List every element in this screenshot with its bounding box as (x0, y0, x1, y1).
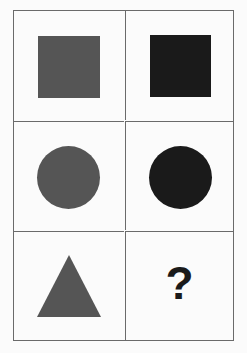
cell-row2-col2 (125, 121, 233, 230)
gray-circle-shape (37, 146, 100, 209)
gray-square-shape (38, 36, 100, 98)
question-mark-icon: ? (126, 260, 233, 306)
shape-puzzle-grid: ? (13, 10, 234, 341)
cell-row1-col1 (14, 11, 124, 120)
black-square-shape (150, 35, 211, 97)
black-circle-shape (149, 146, 212, 209)
cell-row3-col1 (14, 231, 124, 340)
cell-row1-col2 (125, 11, 233, 120)
cell-row2-col1 (14, 121, 124, 230)
cell-row3-col2-answer: ? (125, 231, 233, 340)
gray-triangle-shape (36, 254, 102, 318)
